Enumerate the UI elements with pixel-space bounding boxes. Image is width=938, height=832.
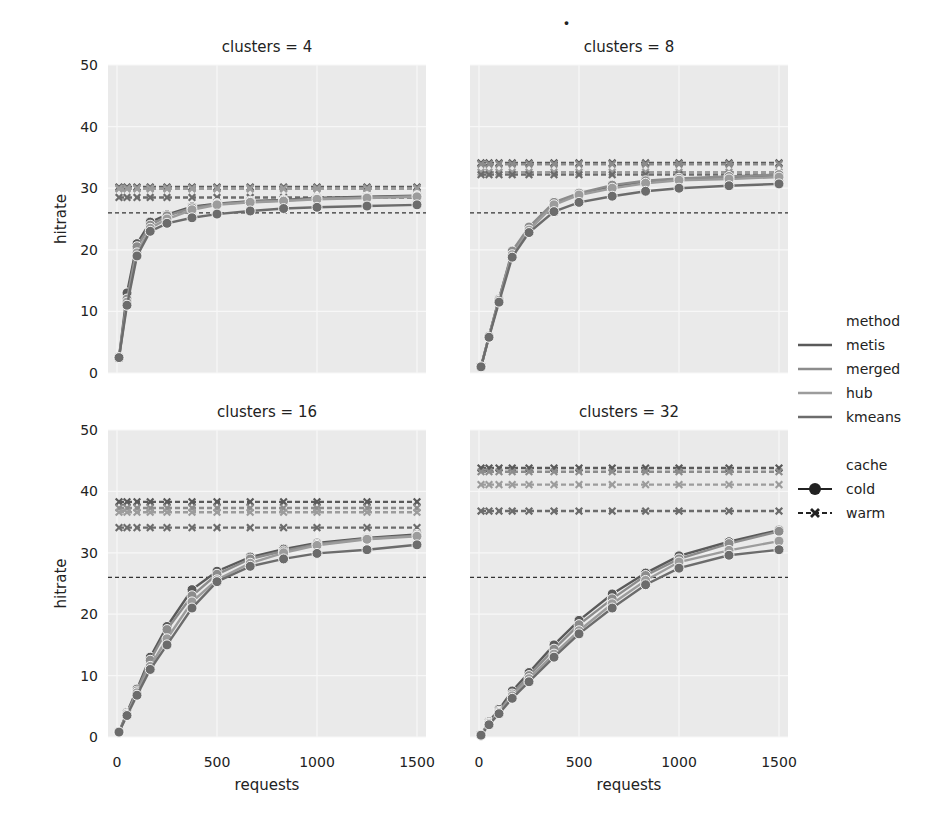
circle-marker [774,526,784,536]
circle-marker [774,545,784,555]
legend-label-warm: warm [846,505,885,521]
legend-title-cache: cache [846,457,887,473]
y-tick-label: 40 [80,119,98,135]
x-tick-label: 1500 [399,754,435,770]
circle-marker [212,577,222,587]
circle-marker [476,362,486,372]
y-tick-label: 10 [80,303,98,319]
circle-marker [212,200,222,210]
y-tick-label: 20 [80,242,98,258]
facet-panel: clusters = 32050010001500requests [470,403,797,794]
plot-area [108,430,426,737]
legend-label-merged: merged [846,361,900,377]
circle-marker [245,206,255,216]
circle-marker-icon [809,483,821,495]
circle-marker [607,603,617,613]
circle-marker [507,252,517,262]
circle-marker [641,580,651,590]
circle-marker [279,204,289,214]
circle-marker [145,226,155,236]
circle-marker [674,183,684,193]
circle-marker [674,563,684,573]
x-tick-label: 500 [204,754,231,770]
x-tick-label: 0 [475,754,484,770]
circle-marker [607,191,617,201]
circle-marker [245,561,255,571]
circle-marker [132,251,142,261]
panel-title: clusters = 32 [579,403,679,421]
circle-marker [187,603,197,613]
circle-marker [574,197,584,207]
circle-marker [212,209,222,219]
circle-marker [549,652,559,662]
circle-marker [122,711,132,721]
circle-marker [412,200,422,210]
circle-marker [122,300,132,310]
circle-marker [312,548,322,558]
y-tick-label: 0 [89,729,98,745]
x-axis-label: requests [235,776,300,794]
circle-marker [774,179,784,189]
circle-marker [724,181,734,191]
y-tick-label: 50 [80,57,98,73]
y-tick-label: 50 [80,422,98,438]
circle-marker [507,693,517,703]
legend-label-cold: cold [846,481,875,497]
y-axis-label: hitrate [52,194,70,244]
legend: methodmetismergedhubkmeanscachecoldwarm [798,313,901,521]
circle-marker [279,554,289,564]
legend-label-metis: metis [846,337,885,353]
facet-panel: clusters = 401020304050hitrate [52,38,426,381]
circle-marker [524,228,534,238]
facet-panel: clusters = 1601020304050hitrate050010001… [52,403,435,794]
panel-title: clusters = 8 [584,38,674,56]
circle-marker [724,550,734,560]
circle-marker [476,730,486,740]
circle-marker [549,207,559,217]
circle-marker [484,332,494,342]
circle-marker [412,540,422,550]
circle-marker [114,353,124,363]
facet-panel: clusters = 8 [470,38,788,373]
x-tick-label: 500 [566,754,593,770]
circle-marker [362,201,372,211]
y-tick-label: 20 [80,606,98,622]
x-tick-label: 1500 [761,754,797,770]
y-tick-label: 0 [89,365,98,381]
y-axis-label: hitrate [52,558,70,608]
circle-marker [145,664,155,674]
circle-marker [484,720,494,730]
facet-line-chart: clusters = 401020304050hitrateclusters =… [0,0,938,832]
panel-title: clusters = 4 [222,38,312,56]
circle-marker [187,213,197,223]
circle-marker [494,709,504,719]
circle-marker [641,186,651,196]
circle-marker [312,202,322,212]
y-tick-label: 30 [80,180,98,196]
panel-title: clusters = 16 [217,403,317,421]
circle-marker [524,677,534,687]
circle-marker [362,545,372,555]
circle-marker [132,690,142,700]
legend-label-kmeans: kmeans [846,409,901,425]
legend-title-method: method [846,313,900,329]
circle-marker [574,629,584,639]
circle-marker [114,727,124,737]
x-axis-label: requests [597,776,662,794]
x-tick-label: 1000 [299,754,335,770]
x-tick-label: 0 [113,754,122,770]
plot-area [470,65,788,373]
y-tick-label: 40 [80,483,98,499]
x-tick-label: 1000 [661,754,697,770]
y-tick-label: 30 [80,545,98,561]
circle-marker [162,640,172,650]
y-tick-label: 10 [80,668,98,684]
circle-marker [162,218,172,228]
circle-marker [494,297,504,307]
legend-label-hub: hub [846,385,873,401]
circle-marker [362,534,372,544]
